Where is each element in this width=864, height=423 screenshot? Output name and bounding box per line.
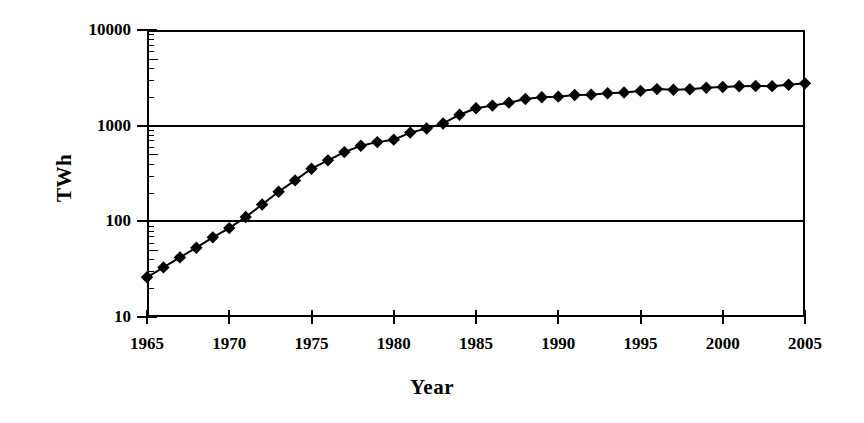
x-tick <box>393 310 395 324</box>
x-tick-label: 2005 <box>765 335 845 352</box>
y-axis-title: TWh <box>52 153 77 201</box>
x-tick-label: 1995 <box>601 335 681 352</box>
plot-area-frame <box>147 30 805 317</box>
y-tick-minor <box>147 39 154 40</box>
y-tick-label: 10 <box>114 308 131 325</box>
y-tick-minor <box>147 193 154 194</box>
x-tick-label: 1970 <box>189 335 269 352</box>
y-tick-minor <box>147 34 154 35</box>
x-axis-title: Year <box>0 375 864 400</box>
y-tick-minor <box>147 80 154 81</box>
y-tick-minor <box>147 236 154 237</box>
y-tick-minor <box>147 243 154 244</box>
x-tick <box>722 310 724 324</box>
x-tick <box>146 310 148 324</box>
y-tick-minor <box>147 231 154 232</box>
y-tick-minor <box>147 135 154 136</box>
y-tick-minor <box>147 271 154 272</box>
y-tick-minor <box>147 68 154 69</box>
y-tick-minor <box>147 176 154 177</box>
x-tick-label: 1965 <box>107 335 187 352</box>
x-tick <box>804 310 806 324</box>
chart-canvas: 10000100010010 1965197019751980198519901… <box>0 0 864 423</box>
y-tick-minor <box>147 51 154 52</box>
y-tick-minor <box>147 154 158 155</box>
gridline-y <box>147 220 805 222</box>
x-tick-label: 1980 <box>354 335 434 352</box>
x-tick <box>311 310 313 324</box>
y-tick-minor <box>147 226 154 227</box>
y-tick-major <box>137 125 157 127</box>
y-tick-label: 1000 <box>97 117 131 134</box>
x-tick-label: 1990 <box>518 335 598 352</box>
y-tick-minor <box>147 250 158 251</box>
gridline-y <box>147 125 805 127</box>
y-tick-label: 100 <box>106 212 132 229</box>
y-tick-label: 10000 <box>89 21 132 38</box>
y-tick-minor <box>147 45 154 46</box>
y-tick-minor <box>147 59 158 60</box>
y-tick-minor <box>147 259 154 260</box>
x-tick <box>228 310 230 324</box>
y-tick-minor <box>147 147 154 148</box>
y-tick-minor <box>147 288 154 289</box>
y-tick-major <box>137 29 157 31</box>
x-tick <box>475 310 477 324</box>
x-tick-label: 1985 <box>436 335 516 352</box>
y-tick-minor <box>147 130 154 131</box>
y-tick-major <box>137 220 157 222</box>
y-tick-minor <box>147 164 154 165</box>
x-tick-label: 2000 <box>683 335 763 352</box>
x-tick <box>557 310 559 324</box>
y-tick-minor <box>147 97 154 98</box>
x-tick-label: 1975 <box>272 335 352 352</box>
x-tick <box>640 310 642 324</box>
y-tick-minor <box>147 140 154 141</box>
